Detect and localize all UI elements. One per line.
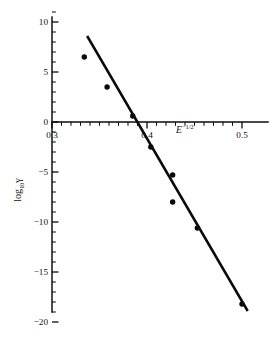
y-tick-label: 0 [43,117,48,127]
y-axis-title-text: log10γ [12,178,25,202]
y-tick-label: −5 [38,167,48,177]
data-point [170,199,175,204]
scatter-plot: 0.30.40.5 1050−5−10−15−20 E−1/2 log10γ [0,0,278,340]
data-point [82,54,87,59]
y-tick-label: −10 [34,217,49,227]
y-tick-label: 10 [39,17,49,27]
y-tick-label: 5 [43,67,48,77]
figure-container: 0.30.40.5 1050−5−10−15−20 E−1/2 log10γ [0,0,278,340]
x-axis-title: E−1/2 [175,123,194,135]
data-point [130,113,135,118]
y-tick-label: −15 [34,267,49,277]
data-point [195,225,200,230]
data-point [239,301,244,306]
data-point [148,144,153,149]
data-point-series [82,54,245,306]
plot-axes [52,17,268,312]
x-axis-ticks [52,122,242,129]
x-tick-label: 0.3 [46,130,58,140]
y-axis-ticks [52,12,59,322]
x-axis-title-text: E−1/2 [175,123,194,135]
fit-line [87,36,248,311]
fit-line-group [87,36,248,311]
y-axis-title: log10γ [12,178,25,202]
x-tick-label: 0.5 [236,130,248,140]
data-point [170,172,175,177]
data-point [104,84,109,89]
y-axis-tick-labels: 1050−5−10−15−20 [34,17,49,327]
y-tick-label: −20 [34,317,49,327]
